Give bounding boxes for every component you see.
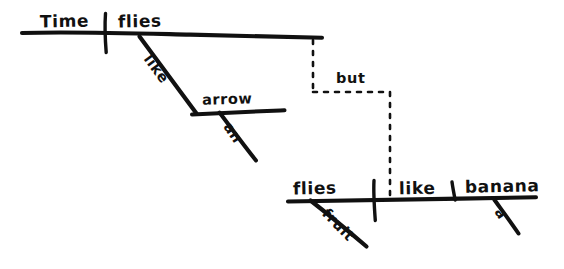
- subject-verb-divider-bottom: [374, 181, 376, 221]
- arrow-line: [192, 110, 285, 114]
- label-object-banana: banana: [465, 177, 540, 195]
- label-subject-time: Time: [40, 13, 89, 31]
- subject-verb-divider-top: [105, 14, 106, 53]
- label-object-arrow: arrow: [202, 91, 253, 107]
- diagram-canvas: [0, 0, 564, 269]
- conjunction-dashed-connector: [313, 40, 390, 199]
- label-subject-flies-bottom: flies: [293, 180, 337, 198]
- label-verb-like-bottom: like: [399, 180, 436, 198]
- sentence-diagram-figure: Time flies like arrow an but flies like …: [0, 0, 564, 269]
- label-verb-flies-top: flies: [118, 13, 162, 31]
- label-conjunction-but: but: [336, 71, 365, 86]
- clause-top-group: [22, 14, 322, 161]
